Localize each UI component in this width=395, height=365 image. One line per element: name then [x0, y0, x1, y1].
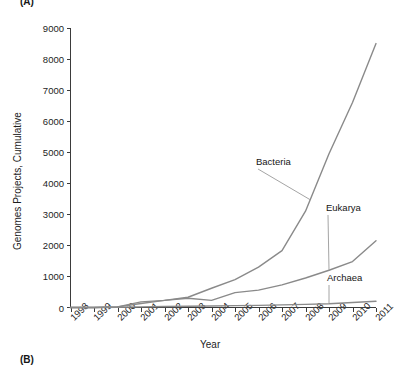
chart-series-lines — [71, 44, 377, 308]
y-axis-ticks — [67, 28, 71, 308]
series-line-bacteria — [71, 44, 377, 308]
chart-axes — [71, 28, 377, 308]
series-line-eukarya — [71, 241, 377, 308]
x-axis-ticks — [72, 308, 377, 312]
annotation-leader-lines — [258, 169, 329, 304]
series-line-archaea — [71, 301, 377, 307]
leader-line-eukarya — [328, 215, 329, 270]
leader-line-bacteria — [258, 169, 310, 200]
